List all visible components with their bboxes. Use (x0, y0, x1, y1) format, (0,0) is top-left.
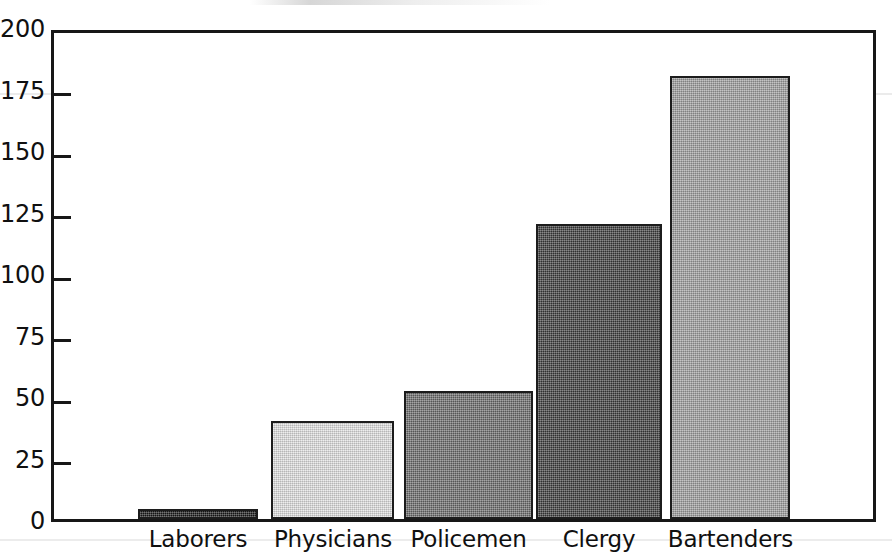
y-axis-tick-label: 50 (0, 386, 45, 410)
y-axis-tick (54, 278, 71, 281)
y-axis-tick-label: 125 (0, 202, 45, 226)
x-axis-label-bartenders: Bartenders (658, 524, 803, 554)
y-axis-tick (54, 93, 71, 96)
y-axis-tick-label: 150 (0, 140, 45, 164)
x-axis-label-physicians: Physicians (258, 524, 408, 554)
bar-clergy (536, 224, 662, 519)
y-axis-tick (54, 216, 71, 219)
x-axis-label-policemen: Policemen (396, 524, 541, 554)
bar-laborers (138, 509, 258, 519)
x-axis-category-labels: LaborersPhysiciansPolicemenClergyBartend… (0, 524, 892, 560)
y-axis-tick (54, 155, 71, 158)
y-axis-tick-labels: 0255075100125150175200 (0, 30, 45, 522)
x-axis-label-laborers: Laborers (128, 524, 268, 554)
plot-area (51, 30, 876, 522)
y-axis-tick-label: 75 (0, 325, 45, 349)
y-axis-tick-label: 25 (0, 448, 45, 472)
bar-chart-figure: 0255075100125150175200 LaborersPhysician… (0, 0, 892, 560)
bar-policemen (404, 391, 533, 519)
bar-bartenders (670, 76, 790, 519)
scan-artifact-top (250, 0, 550, 5)
y-axis-tick-label: 100 (0, 263, 45, 287)
y-axis-tick (54, 339, 71, 342)
y-axis-tick-label: 200 (0, 17, 45, 41)
y-axis-tick-label: 175 (0, 79, 45, 103)
y-axis-tick (54, 401, 71, 404)
x-axis-label-clergy: Clergy (529, 524, 669, 554)
y-axis-tick (54, 462, 71, 465)
bar-physicians (271, 421, 394, 519)
